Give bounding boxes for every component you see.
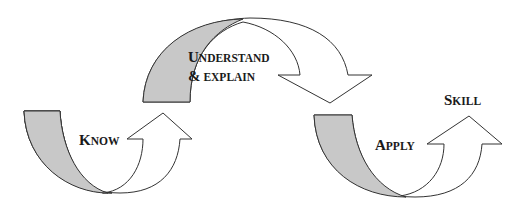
know-arrow <box>24 111 192 193</box>
apply-arrow-shaded-tail <box>314 115 406 197</box>
understand-label: UNDERSTAND <box>188 49 270 65</box>
process-diagram: KNOW UNDERSTAND & EXPLAIN APPLY SKILL <box>0 0 528 209</box>
know-label: KNOW <box>79 132 120 148</box>
apply-label: APPLY <box>375 137 416 153</box>
explain-label: & EXPLAIN <box>188 68 256 84</box>
skill-label: SKILL <box>444 92 481 108</box>
apply-arrow <box>314 115 502 197</box>
